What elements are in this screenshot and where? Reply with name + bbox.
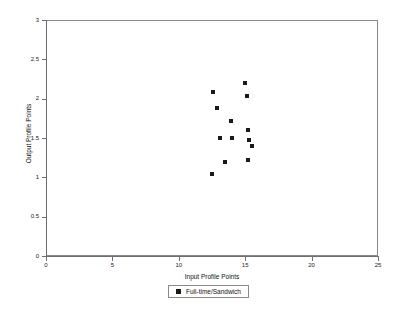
data-point [246, 128, 250, 132]
x-axis-tick-label: 20 [300, 262, 324, 269]
plot-data-area [46, 20, 378, 256]
y-axis-title: Output Profile Points [25, 64, 32, 204]
data-point [247, 138, 251, 142]
data-point [223, 160, 227, 164]
x-axis-title: Input Profile Points [46, 273, 378, 280]
x-axis-tick-label: 0 [34, 262, 58, 269]
y-axis-tick-label: 0 [13, 253, 39, 260]
legend-item-label: Full-time/Sandwich [186, 288, 241, 295]
x-axis-tick [179, 257, 180, 261]
x-axis-tick [312, 257, 313, 261]
x-axis-tick-label: 10 [167, 262, 191, 269]
x-axis-tick [378, 257, 379, 261]
scatter-chart-figure: 00.511.522.53 0510152025 Input Profile P… [0, 0, 400, 319]
data-point [229, 119, 233, 123]
y-axis-tick-label: 3 [13, 17, 39, 24]
x-axis-tick-label: 5 [100, 262, 124, 269]
y-axis-tick-label: 2.5 [13, 56, 39, 63]
data-point [246, 158, 250, 162]
data-point [210, 172, 214, 176]
chart-legend: Full-time/Sandwich [168, 285, 249, 298]
x-axis-tick [245, 257, 246, 261]
x-axis-tick-label: 25 [366, 262, 390, 269]
square-marker-icon [176, 289, 181, 294]
x-axis-tick [46, 257, 47, 261]
data-point [215, 106, 219, 110]
x-axis-tick [112, 257, 113, 261]
data-point [243, 81, 247, 85]
data-point [218, 136, 222, 140]
data-point [230, 136, 234, 140]
x-axis-line [46, 256, 379, 257]
data-point [250, 144, 254, 148]
data-point [245, 94, 249, 98]
x-axis-tick-label: 15 [233, 262, 257, 269]
y-axis-tick-label: 0.5 [13, 213, 39, 220]
data-point [211, 90, 215, 94]
